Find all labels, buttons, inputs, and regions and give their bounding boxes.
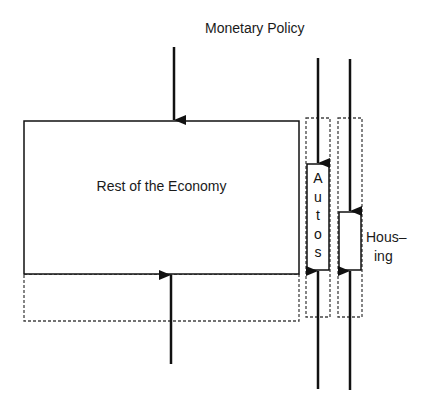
- housing-box: [339, 212, 361, 270]
- diagram-canvas: [0, 0, 435, 414]
- monetary-policy-diagram: Monetary Policy Rest of the Economy A u …: [0, 0, 435, 414]
- housing-label: Hous– ing: [366, 228, 406, 266]
- autos-letter: u: [314, 188, 322, 207]
- autos-letter: o: [314, 225, 322, 244]
- rest-of-economy-label: Rest of the Economy: [24, 179, 299, 193]
- autos-letter: s: [315, 243, 322, 262]
- rest-economy-box: [24, 121, 299, 274]
- housing-label-line-2: ing: [366, 247, 406, 266]
- autos-letter: t: [316, 206, 320, 225]
- housing-label-line-1: Hous–: [366, 228, 406, 247]
- autos-label: A u t o s: [307, 169, 329, 262]
- autos-letter: A: [313, 169, 322, 188]
- monetary-policy-label: Monetary Policy: [205, 21, 305, 35]
- rest-economy-dashed-box: [24, 274, 299, 321]
